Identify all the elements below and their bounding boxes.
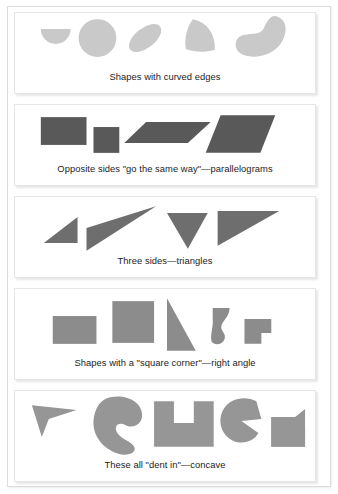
panel-curved-edges: Shapes with curved edges <box>14 12 316 94</box>
shape-curved-corner-blob <box>211 308 229 344</box>
shape-square <box>93 127 119 153</box>
figure-concave <box>15 391 315 459</box>
shape-wide-scalene-triangle <box>218 211 280 246</box>
shape-dart-arrowhead <box>32 405 77 437</box>
shape-flat-parallelogram <box>124 122 210 143</box>
shape-tilted-ellipse <box>124 19 166 58</box>
shape-downward-triangle <box>167 213 208 249</box>
caption-parallelograms: Opposite sides "go the same way"—paralle… <box>15 163 315 174</box>
caption-triangles: Three sides—triangles <box>15 255 315 266</box>
shape-small-right-triangle <box>44 217 78 243</box>
shape-rectangle <box>41 117 87 145</box>
panel-stack: Shapes with curved edges Opposite sides … <box>14 12 324 482</box>
panel-parallelograms: Opposite sides "go the same way"—paralle… <box>14 104 316 186</box>
shape-l-shape <box>244 319 271 344</box>
caption-right-angle: Shapes with a "square corner"—right angl… <box>15 357 315 368</box>
panel-right-angle: Shapes with a "square corner"—right angl… <box>14 288 316 380</box>
figure-curved-edges <box>15 13 315 71</box>
figure-parallelograms <box>15 105 315 163</box>
caption-curved-edges: Shapes with curved edges <box>15 71 315 82</box>
shape-circle <box>79 19 117 57</box>
panel-concave: These all "dent in"—concave <box>14 390 316 482</box>
shape-slanted-parallelogram <box>206 115 276 153</box>
shape-curved-c-blob <box>93 397 142 455</box>
shape-u-shape <box>154 401 214 447</box>
shape-right-triangle <box>167 298 196 351</box>
shape-crescent-bean <box>236 16 286 57</box>
page-root: Shapes with curved edges Opposite sides … <box>0 0 338 494</box>
shape-pacman-c <box>220 398 261 442</box>
shape-long-thin-triangle <box>87 206 157 251</box>
figure-right-angle <box>15 289 315 357</box>
shape-semicircle <box>41 29 71 44</box>
shape-notched-block-body <box>271 409 305 447</box>
caption-concave: These all "dent in"—concave <box>15 459 315 470</box>
panel-triangles: Three sides—triangles <box>14 196 316 278</box>
shape-curved-wedge <box>185 19 215 52</box>
shape-rectangle <box>53 316 97 344</box>
figure-triangles <box>15 197 315 255</box>
shape-square <box>112 301 154 343</box>
